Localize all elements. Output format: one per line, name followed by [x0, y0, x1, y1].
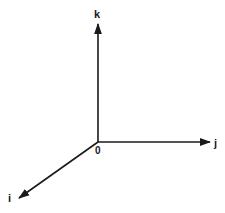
j-axis-label: j	[214, 138, 217, 149]
i-axis-arrow	[19, 142, 98, 198]
coordinate-axes-diagram	[0, 0, 225, 213]
k-axis-label: k	[94, 9, 100, 20]
i-axis-label: i	[8, 193, 11, 204]
origin-label: 0	[95, 146, 101, 156]
